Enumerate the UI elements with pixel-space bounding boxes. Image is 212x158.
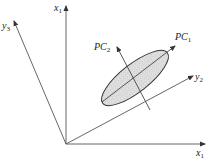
- pca-diagram: [0, 0, 212, 158]
- pc2-label: PC2: [94, 42, 110, 54]
- x1-horizontal-label: x1: [196, 148, 204, 158]
- y3-label: y3: [2, 21, 10, 33]
- x1-vertical-label: x1: [54, 3, 62, 15]
- y3-axis: [14, 21, 66, 144]
- pc1-axis: [102, 46, 175, 102]
- y2-label: y2: [195, 72, 203, 84]
- pc1-label: PC1: [175, 32, 191, 44]
